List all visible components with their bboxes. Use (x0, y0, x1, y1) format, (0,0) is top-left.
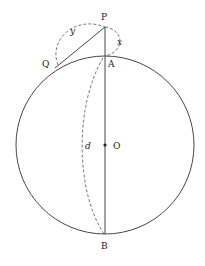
label-B: B (101, 241, 108, 251)
label-A: A (107, 59, 115, 69)
label-P: P (101, 12, 107, 22)
label-O: O (113, 141, 120, 151)
dashed-arc-y (56, 24, 105, 65)
center-point-O (103, 143, 106, 146)
tangent-line-PQ (55, 27, 105, 68)
label-y: y (69, 26, 76, 36)
geometry-diagram: P Q A O B d x y (0, 0, 205, 266)
label-d: d (85, 141, 91, 151)
label-x: x (117, 37, 122, 47)
label-Q: Q (42, 59, 49, 69)
